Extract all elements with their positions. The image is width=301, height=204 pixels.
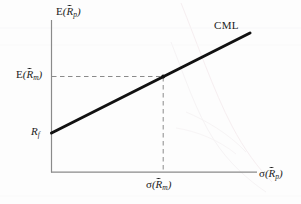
scan-artifacts: [0, 3, 301, 196]
y-axis-label-var: R: [66, 6, 73, 17]
sigma-m-close: ): [168, 178, 172, 190]
market-sigma-label: σ(Rm): [146, 179, 171, 192]
y-axis-label-close: ): [77, 5, 81, 17]
x-axis-label-close: ): [279, 167, 283, 179]
market-portfolio-point: [161, 75, 165, 79]
erm-func: E: [16, 68, 23, 80]
sigma-m-var: R: [156, 179, 163, 190]
erm-var: R: [26, 69, 33, 80]
chart-plot-area: [0, 0, 301, 204]
expected-market-return-label: E(Rm): [16, 69, 42, 82]
cml-annotation-label: CML: [214, 20, 239, 31]
rf-var: R: [31, 125, 38, 137]
y-axis-label: E(Rp): [56, 6, 81, 19]
x-axis-label-var: R: [269, 168, 276, 179]
cml-chart-figure: E(Rp) E(Rm) Rf σ(Rm) σ(Rp) CML: [0, 0, 301, 204]
risk-free-rate-label: Rf: [31, 126, 40, 139]
rf-sub: f: [38, 130, 40, 139]
cml-line: [52, 33, 251, 133]
erm-close: ): [39, 68, 43, 80]
x-axis-label: σ(Rp): [259, 168, 283, 181]
y-axis-label-func: E: [56, 5, 63, 17]
